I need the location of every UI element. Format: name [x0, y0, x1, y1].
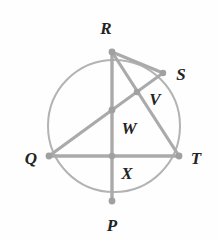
point-label-t: T — [191, 150, 201, 167]
point-label-w: W — [121, 120, 136, 137]
point-label-x: X — [121, 165, 132, 182]
point-label-p: P — [107, 217, 117, 234]
vertex-dot-s — [160, 70, 166, 76]
vertex-dot-r — [109, 49, 116, 56]
vertex-dot-w — [109, 107, 116, 114]
point-label-v: V — [149, 91, 160, 108]
vertex-dot-p — [109, 198, 116, 205]
chord-q-w — [49, 110, 112, 156]
vertex-dot-v — [134, 89, 140, 95]
point-label-r: R — [100, 20, 111, 37]
point-label-s: S — [176, 66, 185, 83]
vertex-dot-x — [109, 153, 115, 159]
vertex-dot-q — [46, 153, 53, 160]
point-label-q: Q — [25, 150, 37, 167]
vertex-dot-t — [176, 153, 183, 160]
geometry-figure: RSTPQVWX — [0, 0, 217, 241]
chord-segments-group — [49, 52, 179, 201]
